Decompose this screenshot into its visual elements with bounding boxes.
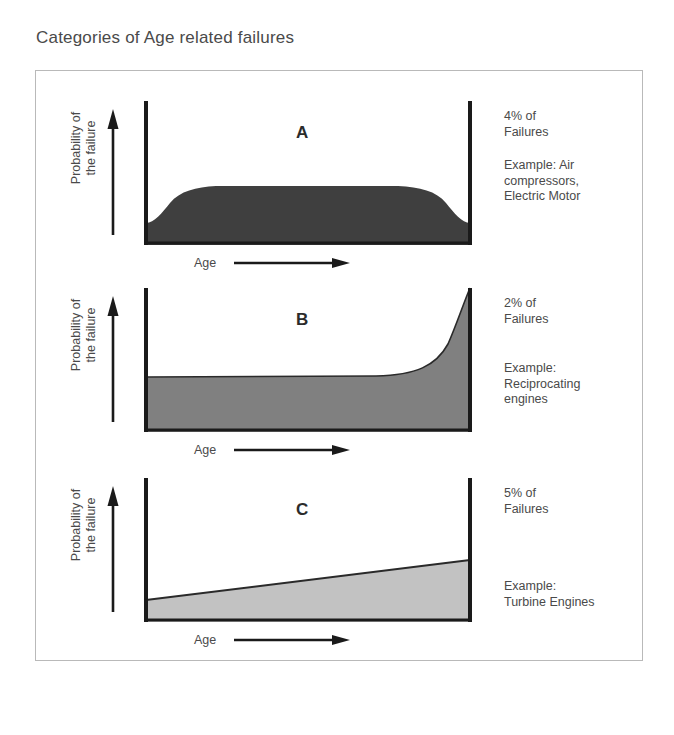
- curve-b: [136, 282, 481, 432]
- failure-example-b: Example: Reciprocating engines: [504, 361, 634, 408]
- panel-a: Probability of the failure A Age 4%: [36, 89, 644, 279]
- plot-area-b: B: [136, 282, 481, 432]
- curve-c: [136, 472, 481, 622]
- y-axis-a: Probability of the failure: [42, 95, 128, 245]
- panel-letter-b: B: [296, 310, 308, 330]
- failure-percent-c: 5% of Failures: [504, 486, 634, 517]
- up-arrow-icon: [106, 107, 120, 235]
- x-axis-label: Age: [194, 443, 216, 457]
- x-axis-label: Age: [194, 633, 216, 647]
- right-arrow-icon: [234, 257, 352, 269]
- y-axis-label: Probability of the failure: [69, 265, 99, 405]
- x-axis-b: Age: [194, 439, 424, 461]
- right-arrow-icon: [234, 634, 352, 646]
- annotation-a: 4% of Failures Example: Air compressors,…: [504, 109, 634, 205]
- failure-percent-a: 4% of Failures: [504, 109, 634, 140]
- right-arrow-icon: [234, 444, 352, 456]
- y-axis-b: Probability of the failure: [42, 282, 128, 432]
- panel-c: Probability of the failure C Age: [36, 466, 644, 656]
- x-axis-a: Age: [194, 252, 424, 274]
- x-axis-c: Age: [194, 629, 424, 651]
- panel-letter-a: A: [296, 123, 308, 143]
- failure-percent-b: 2% of Failures: [504, 296, 634, 327]
- figure-frame: Probability of the failure A Age 4%: [35, 70, 643, 661]
- y-axis-label: Probability of the failure: [69, 455, 99, 595]
- plot-area-a: A: [136, 95, 481, 245]
- y-axis-label: Probability of the failure: [69, 78, 99, 218]
- plot-area-c: C: [136, 472, 481, 622]
- page-title: Categories of Age related failures: [36, 28, 294, 48]
- failure-example-a: Example: Air compressors, Electric Motor: [504, 158, 634, 205]
- up-arrow-icon: [106, 294, 120, 422]
- up-arrow-icon: [106, 484, 120, 612]
- failure-example-c: Example: Turbine Engines: [504, 579, 634, 610]
- annotation-b: 2% of Failures Example: Reciprocating en…: [504, 296, 634, 408]
- y-axis-c: Probability of the failure: [42, 472, 128, 622]
- curve-a: [136, 95, 481, 245]
- annotation-c: 5% of Failures Example: Turbine Engines: [504, 486, 634, 610]
- panel-b: Probability of the failure B Age: [36, 276, 644, 466]
- panel-letter-c: C: [296, 500, 308, 520]
- x-axis-label: Age: [194, 256, 216, 270]
